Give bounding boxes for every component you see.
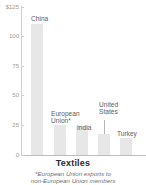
bar-united-states	[98, 134, 110, 155]
y-tick-mark-25	[21, 125, 24, 126]
y-tick-mark-100	[21, 36, 24, 37]
bar-turkey	[120, 138, 132, 155]
label-united-states-line2: States	[99, 108, 118, 115]
y-tick-label-100: 100	[0, 33, 19, 39]
x-axis-baseline	[21, 155, 146, 156]
y-tick-label-75: 75	[0, 63, 19, 69]
y-tick-mark-50	[21, 95, 24, 96]
leader-line-united-states	[104, 120, 105, 134]
y-tick-mark-0	[21, 155, 24, 156]
y-axis-line	[21, 6, 22, 156]
label-turkey: Turkey	[117, 130, 137, 137]
label-european-union-line2: Union*	[51, 117, 71, 124]
label-india: India	[77, 124, 91, 131]
footnote-line-1: *European Union exports to	[0, 170, 146, 177]
bar-european-union	[54, 125, 66, 155]
footnote-line-2: non-European Union members	[0, 177, 146, 184]
y-tick-label-50: 50	[0, 92, 19, 98]
y-tick-label-125: $125	[0, 4, 19, 10]
y-tick-mark-125	[21, 7, 24, 8]
chart-footnote: *European Union exports to non-European …	[0, 170, 146, 184]
chart-title: Textiles	[0, 158, 146, 168]
y-tick-mark-75	[21, 66, 24, 67]
y-tick-label-25: 25	[0, 122, 19, 128]
label-china: China	[31, 15, 48, 22]
bar-china	[31, 24, 43, 155]
textiles-bar-chart: $125 100 75 50 25 0 China European Union…	[0, 0, 146, 185]
